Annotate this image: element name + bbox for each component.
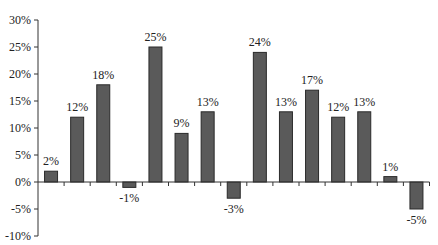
bar — [123, 182, 136, 187]
data-label: -5% — [406, 213, 426, 227]
y-tick-label: 5% — [15, 148, 31, 162]
bar — [227, 182, 240, 198]
data-label: 2% — [43, 154, 59, 168]
bars: 2%12%18%-1%25%9%13%-3%24%13%17%12%13%1%-… — [43, 30, 426, 227]
data-label: 13% — [353, 95, 375, 109]
y-tick-label: -10% — [5, 229, 31, 243]
bar — [201, 112, 214, 182]
y-tick-label: 20% — [9, 67, 31, 81]
data-label: -1% — [119, 191, 139, 205]
y-axis: 30%25%20%15%10%5%0%-5%-10% — [5, 13, 38, 243]
bar — [384, 177, 397, 182]
bar — [306, 90, 319, 182]
data-label: 13% — [275, 95, 297, 109]
data-label: 18% — [92, 68, 114, 82]
y-tick-label: 30% — [9, 13, 31, 27]
y-tick-label: 10% — [9, 121, 31, 135]
bar — [149, 47, 162, 182]
data-label: -3% — [224, 202, 244, 216]
y-tick-label: 0% — [15, 175, 31, 189]
bar — [97, 85, 110, 182]
data-label: 17% — [301, 73, 323, 87]
bar — [253, 52, 266, 182]
data-label: 1% — [382, 160, 398, 174]
data-label: 12% — [66, 100, 88, 114]
data-label: 12% — [327, 100, 349, 114]
bar — [175, 133, 188, 182]
bar — [410, 182, 423, 209]
data-label: 24% — [249, 35, 271, 49]
bar — [358, 112, 371, 182]
data-label: 13% — [197, 95, 219, 109]
data-label: 9% — [174, 116, 190, 130]
bar — [71, 117, 84, 182]
bar — [279, 112, 292, 182]
bar — [332, 117, 345, 182]
y-tick-label: -5% — [11, 202, 31, 216]
data-label: 25% — [144, 30, 166, 44]
y-tick-label: 15% — [9, 94, 31, 108]
y-tick-label: 25% — [9, 40, 31, 54]
bar-chart: 30%25%20%15%10%5%0%-5%-10% 2%12%18%-1%25… — [0, 0, 438, 245]
bar — [45, 171, 58, 182]
